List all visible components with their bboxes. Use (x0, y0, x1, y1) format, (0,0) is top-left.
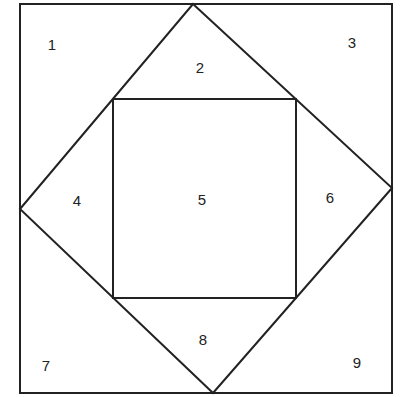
region-label-5: 5 (198, 191, 206, 208)
region-label-1: 1 (48, 36, 56, 53)
region-label-2: 2 (196, 59, 204, 76)
region-label-4: 4 (73, 192, 81, 209)
region-label-8: 8 (199, 331, 207, 348)
region-label-3: 3 (348, 34, 356, 51)
region-label-9: 9 (353, 354, 361, 371)
region-label-6: 6 (326, 189, 334, 206)
region-label-7: 7 (42, 357, 50, 374)
